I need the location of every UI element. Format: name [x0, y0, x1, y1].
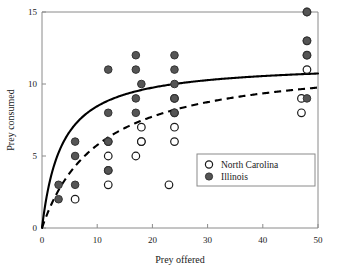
x-axis-title: Prey offered [155, 254, 205, 265]
data-point [132, 66, 140, 74]
y-tick-label-5: 5 [33, 151, 38, 161]
y-axis-title: Prey consumed [5, 89, 16, 150]
functional-response-chart: 0 5 10 15 0 10 20 30 40 50 Prey offered … [0, 0, 337, 277]
data-point [171, 66, 179, 74]
legend-marker-illinois [205, 173, 212, 180]
x-tick-label-0: 0 [40, 235, 45, 245]
figure-container: 0 5 10 15 0 10 20 30 40 50 Prey offered … [0, 0, 337, 277]
data-point [55, 181, 63, 189]
data-point [171, 51, 179, 59]
data-point [138, 123, 146, 131]
fitted-curves [42, 74, 318, 228]
x-tick-label-40: 40 [258, 235, 268, 245]
legend-box [197, 154, 315, 186]
data-point [132, 109, 140, 117]
x-tick-label-30: 30 [203, 235, 213, 245]
data-point [171, 95, 179, 103]
y-tick-label-10: 10 [28, 79, 38, 89]
data-point [303, 95, 311, 103]
data-point [171, 138, 179, 146]
data-point [55, 195, 63, 203]
x-tick-label-10: 10 [93, 235, 103, 245]
x-axis-ticks: 0 10 20 30 40 50 [40, 224, 323, 245]
data-point [104, 109, 112, 117]
data-point [104, 167, 112, 175]
data-point [298, 109, 306, 117]
data-point [132, 95, 140, 103]
data-point [171, 123, 179, 131]
x-tick-label-50: 50 [314, 235, 324, 245]
legend-marker-north-carolina [205, 161, 212, 168]
x-tick-label-20: 20 [148, 235, 158, 245]
axes [42, 12, 318, 228]
data-point [104, 181, 112, 189]
curve-illinois-fit [42, 74, 318, 228]
data-point [171, 109, 179, 117]
y-tick-label-0: 0 [33, 223, 38, 233]
data-point [71, 138, 79, 146]
legend-label-north-carolina: North Carolina [221, 160, 279, 170]
data-point [71, 195, 79, 203]
data-point [138, 80, 146, 88]
data-point [132, 51, 140, 59]
data-point [303, 37, 311, 45]
data-point [303, 66, 311, 74]
data-point [71, 181, 79, 189]
data-point [132, 152, 140, 160]
data-point [171, 80, 179, 88]
data-point [165, 181, 173, 189]
data-point [138, 138, 146, 146]
y-tick-label-15: 15 [28, 7, 38, 17]
data-point [104, 138, 112, 146]
legend-label-illinois: Illinois [221, 172, 248, 182]
data-point [104, 66, 112, 74]
data-point [104, 152, 112, 160]
legend: North Carolina Illinois [197, 154, 315, 186]
y-axis-ticks: 0 5 10 15 [28, 7, 46, 233]
data-point [303, 51, 311, 59]
data-point [303, 8, 311, 16]
data-point [71, 152, 79, 160]
